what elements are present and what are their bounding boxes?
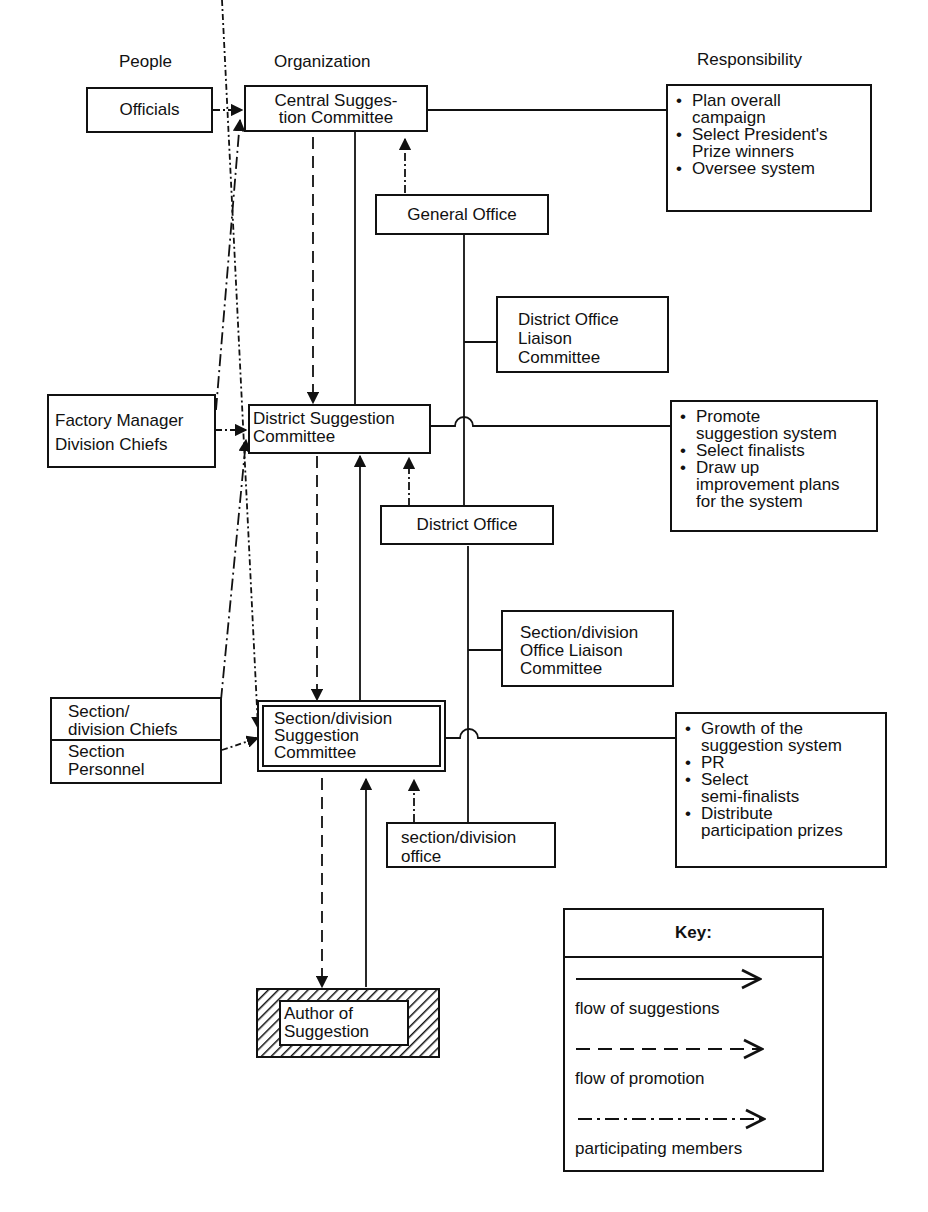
central-line2: tion Committee <box>279 109 393 126</box>
section-liaison-line3: Committee <box>520 660 672 678</box>
section-committee-box[interactable]: Section/division Suggestion Committee <box>257 700 446 772</box>
general-office-label: General Office <box>407 206 516 224</box>
header-organization: Organization <box>274 52 370 72</box>
factory-manager-label: Factory Manager <box>55 412 214 430</box>
key-label-promotion: flow of promotion <box>575 1070 704 1088</box>
division-chiefs-label: Division Chiefs <box>55 436 214 454</box>
district-line1: District Suggestion <box>253 410 429 428</box>
section-office-line2: office <box>401 847 554 866</box>
district-responsibility-box: Promotesuggestion system Select finalist… <box>670 400 878 532</box>
officials-box[interactable]: Officials <box>86 87 213 133</box>
central-line1: Central Sugges- <box>275 92 398 109</box>
section-liaison-line1: Section/division <box>520 624 672 642</box>
key-box: Key: flow of suggestions flow of promoti… <box>563 908 824 1172</box>
district-resp-item: Draw upimprovement plansfor the system <box>680 459 870 510</box>
author-box[interactable]: Author of Suggestion <box>279 1000 409 1046</box>
district-resp-item: Promotesuggestion system <box>680 408 870 442</box>
section-line1: Section/division <box>274 710 439 727</box>
central-committee-box[interactable]: Central Sugges- tion Committee <box>244 85 428 132</box>
section-line3: Committee <box>274 744 439 761</box>
district-office-box[interactable]: District Office <box>380 505 554 545</box>
section-personnel-line1: Section <box>68 743 220 761</box>
author-line2: Suggestion <box>284 1023 407 1041</box>
district-resp-item: Select finalists <box>680 442 870 459</box>
section-office-box[interactable]: section/division office <box>386 822 556 868</box>
key-label-suggestions: flow of suggestions <box>575 1000 720 1018</box>
section-personnel-cell[interactable]: Section Personnel <box>52 741 220 779</box>
author-line1: Author of <box>284 1005 407 1023</box>
district-liaison-line1: District Office <box>518 310 667 329</box>
central-resp-item: Plan overallcampaign <box>676 92 864 126</box>
district-liaison-line2: Liaison <box>518 329 667 348</box>
section-liaison-box[interactable]: Section/division Office Liaison Committe… <box>501 610 674 687</box>
central-responsibility-box: Plan overallcampaign Select President'sP… <box>666 84 872 212</box>
section-personnel-line2: Personnel <box>68 761 220 779</box>
header-people: People <box>119 52 172 72</box>
section-responsibility-box: Growth of thesuggestion system PR Select… <box>675 712 887 868</box>
section-line2: Suggestion <box>274 727 439 744</box>
section-liaison-line2: Office Liaison <box>520 642 672 660</box>
district-line2: Committee <box>253 428 429 446</box>
factory-manager-box[interactable]: Factory Manager Division Chiefs <box>47 394 216 468</box>
section-office-line1: section/division <box>401 828 554 847</box>
district-office-label: District Office <box>417 516 518 534</box>
section-resp-item: Distributeparticipation prizes <box>685 805 879 839</box>
section-chiefs-line2: division Chiefs <box>68 721 220 739</box>
district-liaison-box[interactable]: District Office Liaison Committee <box>496 296 669 373</box>
section-people-box[interactable]: Section/ division Chiefs Section Personn… <box>50 697 222 784</box>
district-liaison-line3: Committee <box>518 348 667 367</box>
section-chiefs-cell[interactable]: Section/ division Chiefs <box>52 699 220 741</box>
central-resp-item: Oversee system <box>676 160 864 177</box>
officials-label: Officials <box>119 101 179 119</box>
general-office-box[interactable]: General Office <box>375 194 549 235</box>
section-resp-item: Growth of thesuggestion system <box>685 720 879 754</box>
key-title: Key: <box>565 910 822 958</box>
section-resp-item: PR <box>685 754 879 771</box>
central-resp-item: Select President'sPrize winners <box>676 126 864 160</box>
header-responsibility: Responsibility <box>697 50 802 70</box>
section-resp-item: Selectsemi-finalists <box>685 771 879 805</box>
key-label-participating: participating members <box>575 1140 742 1158</box>
district-committee-box[interactable]: District Suggestion Committee <box>248 404 431 454</box>
section-chiefs-line1: Section/ <box>68 703 220 721</box>
